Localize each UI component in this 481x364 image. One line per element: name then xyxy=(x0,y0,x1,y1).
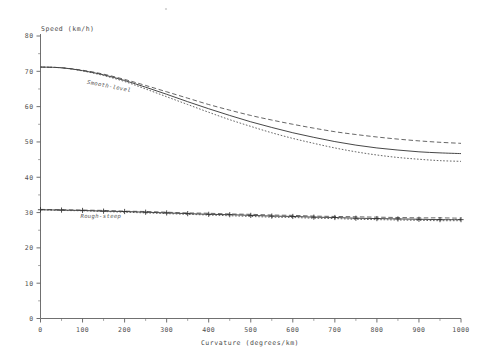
series-line xyxy=(41,67,462,143)
x-tick-label: 900 xyxy=(412,326,425,334)
x-tick-label: 300 xyxy=(160,326,173,334)
x-axis-ticks: 01002003004005006007008009001000 xyxy=(38,319,469,334)
chart-canvas: Speed (km/h) Curvature (degrees/km) 0102… xyxy=(0,0,481,364)
series-smooth-level-central xyxy=(41,67,462,154)
y-tick-label: 0 xyxy=(29,315,33,323)
y-tick-label: 40 xyxy=(25,174,34,182)
y-tick-label: 70 xyxy=(25,68,34,76)
series-smooth-level-upper xyxy=(41,67,462,143)
series-layer xyxy=(38,67,464,222)
x-tick-label: 500 xyxy=(244,326,257,334)
x-tick-label: 100 xyxy=(76,326,89,334)
x-tick-label: 600 xyxy=(286,326,299,334)
x-tick-label: 800 xyxy=(370,326,383,334)
y-tick-label: 50 xyxy=(25,138,34,146)
y-tick-label: 20 xyxy=(25,244,34,252)
y-tick-label: 30 xyxy=(25,209,34,217)
x-tick-label: 0 xyxy=(38,326,42,334)
scan-artifact-speck xyxy=(165,8,167,10)
x-tick-label: 700 xyxy=(328,326,341,334)
curve-label-rough-steep: Rough-steep xyxy=(80,213,121,220)
y-axis-title: Speed (km/h) xyxy=(41,25,95,33)
x-tick-label: 400 xyxy=(202,326,215,334)
x-tick-label: 1000 xyxy=(452,326,469,334)
y-tick-label: 60 xyxy=(25,103,34,111)
speed-curvature-chart: Speed (km/h) Curvature (degrees/km) 0102… xyxy=(0,0,481,364)
curve-annotations: Smooth-levelRough-steep xyxy=(80,79,131,220)
y-tick-label: 10 xyxy=(25,280,34,288)
x-axis-title: Curvature (degrees/km) xyxy=(201,339,299,347)
y-axis-ticks: 01020304050607080 xyxy=(25,32,41,323)
y-tick-label: 80 xyxy=(25,32,34,40)
series-line xyxy=(41,67,462,154)
x-tick-label: 200 xyxy=(118,326,131,334)
